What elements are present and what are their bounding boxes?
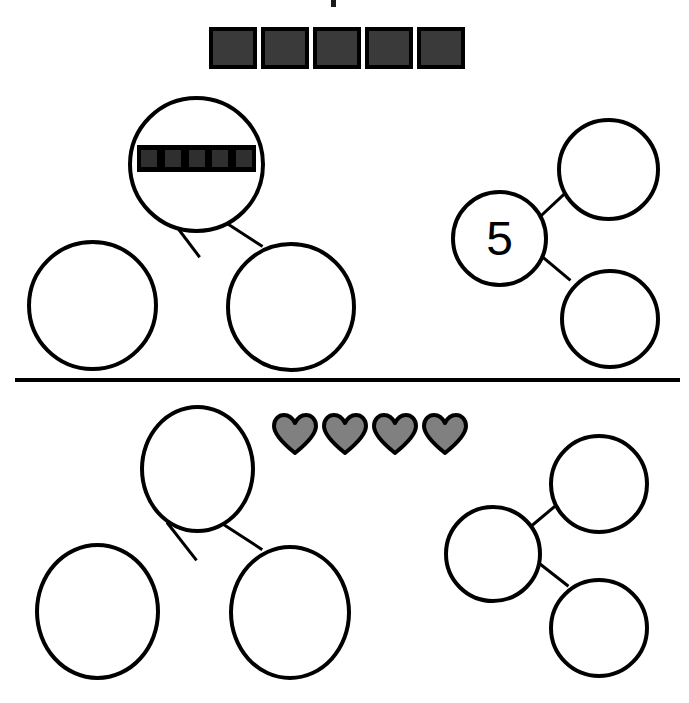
square-tile <box>417 27 465 69</box>
mini-square-tile <box>235 149 253 168</box>
worksheet-page: 5 <box>0 0 689 703</box>
mini-square-tile <box>188 149 206 168</box>
number-bond-part-circle-lower[interactable] <box>549 578 649 678</box>
number-bond-part-circle-left[interactable] <box>27 240 158 371</box>
heart-icon <box>272 413 318 455</box>
section-divider <box>15 378 680 382</box>
hearts-manipulative-strip <box>272 413 468 455</box>
number-bond-part-circle-left[interactable] <box>35 543 160 680</box>
number-bond-whole-circle[interactable] <box>140 405 255 533</box>
mini-squares-strip <box>137 145 256 172</box>
cropped-mark-icon <box>331 0 336 7</box>
heart-icon <box>322 413 368 455</box>
square-tile <box>313 27 361 69</box>
mini-square-tile <box>140 149 158 168</box>
square-tile <box>261 27 309 69</box>
number-bond-whole-circle[interactable]: 5 <box>451 190 548 287</box>
number-bond-part-circle-lower[interactable] <box>560 269 660 369</box>
number-bond-part-circle-upper[interactable] <box>557 118 660 221</box>
square-tile <box>209 27 257 69</box>
number-bond-whole-circle[interactable] <box>444 505 542 603</box>
number-bond-part-circle-right[interactable] <box>226 242 356 372</box>
mini-square-tile <box>164 149 182 168</box>
heart-icon <box>422 413 468 455</box>
mini-square-tile <box>211 149 229 168</box>
number-bond-part-circle-right[interactable] <box>229 545 351 680</box>
square-tile <box>365 27 413 69</box>
heart-icon <box>372 413 418 455</box>
squares-manipulative-strip <box>209 27 465 69</box>
number-bond-whole-value: 5 <box>486 215 513 263</box>
number-bond-part-circle-upper[interactable] <box>549 434 649 534</box>
bond-connector-right <box>221 522 263 551</box>
